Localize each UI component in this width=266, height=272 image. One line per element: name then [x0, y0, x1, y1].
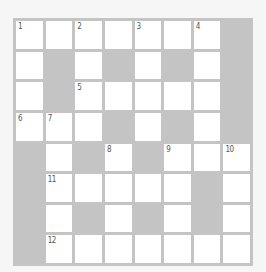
clue-number: 6: [18, 114, 22, 123]
block-cell: [46, 52, 73, 80]
answer-cell[interactable]: [135, 174, 162, 202]
answer-cell[interactable]: [75, 235, 102, 263]
answer-cell[interactable]: [75, 113, 102, 141]
answer-cell[interactable]: [135, 52, 162, 80]
answer-cell[interactable]: [46, 21, 73, 49]
block-cell: [223, 113, 250, 141]
clue-number: 1: [18, 22, 22, 31]
answer-cell[interactable]: 10: [223, 144, 250, 172]
block-cell: [105, 113, 132, 141]
answer-cell[interactable]: [194, 52, 221, 80]
answer-cell[interactable]: 1: [16, 21, 43, 49]
block-cell: [194, 174, 221, 202]
block-cell: [135, 144, 162, 172]
answer-cell[interactable]: [223, 235, 250, 263]
answer-cell[interactable]: [164, 82, 191, 110]
clue-number: 9: [166, 145, 170, 154]
answer-cell[interactable]: [164, 21, 191, 49]
answer-cell[interactable]: 7: [46, 113, 73, 141]
clue-number: 10: [225, 145, 233, 154]
crossword-grid: 123456789101112: [13, 18, 253, 266]
answer-cell[interactable]: [194, 144, 221, 172]
answer-cell[interactable]: [105, 205, 132, 233]
answer-cell[interactable]: [16, 82, 43, 110]
block-cell: [105, 52, 132, 80]
clue-number: 2: [77, 22, 81, 31]
answer-cell[interactable]: [164, 205, 191, 233]
clue-number: 11: [48, 175, 56, 184]
answer-cell[interactable]: 12: [46, 235, 73, 263]
clue-number: 12: [48, 236, 56, 245]
clue-number: 7: [48, 114, 52, 123]
block-cell: [46, 82, 73, 110]
answer-cell[interactable]: [105, 82, 132, 110]
block-cell: [75, 144, 102, 172]
answer-cell[interactable]: 5: [75, 82, 102, 110]
block-cell: [135, 205, 162, 233]
block-cell: [223, 52, 250, 80]
block-cell: [223, 21, 250, 49]
answer-cell[interactable]: [135, 82, 162, 110]
clue-number: 3: [137, 22, 141, 31]
block-cell: [194, 205, 221, 233]
answer-cell[interactable]: 9: [164, 144, 191, 172]
answer-cell[interactable]: 11: [46, 174, 73, 202]
block-cell: [75, 205, 102, 233]
answer-cell[interactable]: [164, 174, 191, 202]
answer-cell[interactable]: [105, 235, 132, 263]
answer-cell[interactable]: [135, 113, 162, 141]
block-cell: [16, 205, 43, 233]
block-cell: [164, 113, 191, 141]
block-cell: [16, 235, 43, 263]
block-cell: [16, 144, 43, 172]
answer-cell[interactable]: 4: [194, 21, 221, 49]
answer-cell[interactable]: [46, 144, 73, 172]
answer-cell[interactable]: [164, 235, 191, 263]
answer-cell[interactable]: [16, 52, 43, 80]
answer-cell[interactable]: [105, 21, 132, 49]
answer-cell[interactable]: [223, 174, 250, 202]
answer-cell[interactable]: [105, 174, 132, 202]
answer-cell[interactable]: 2: [75, 21, 102, 49]
block-cell: [16, 174, 43, 202]
answer-cell[interactable]: [223, 205, 250, 233]
block-cell: [164, 52, 191, 80]
answer-cell[interactable]: [75, 174, 102, 202]
answer-cell[interactable]: [194, 113, 221, 141]
answer-cell[interactable]: 6: [16, 113, 43, 141]
answer-cell[interactable]: [194, 82, 221, 110]
answer-cell[interactable]: [194, 235, 221, 263]
clue-number: 5: [77, 83, 81, 92]
clue-number: 4: [196, 22, 200, 31]
answer-cell[interactable]: 8: [105, 144, 132, 172]
block-cell: [223, 82, 250, 110]
answer-cell[interactable]: [75, 52, 102, 80]
clue-number: 8: [107, 145, 111, 154]
answer-cell[interactable]: [46, 205, 73, 233]
answer-cell[interactable]: 3: [135, 21, 162, 49]
answer-cell[interactable]: [135, 235, 162, 263]
